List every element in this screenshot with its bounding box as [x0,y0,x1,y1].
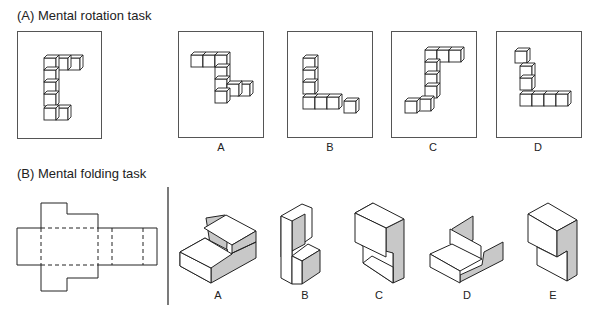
folding-option-d-figure [430,216,503,283]
rotation-option-d-figure [515,48,571,106]
folding-net [17,203,157,291]
rotation-option-a-figure [191,52,253,103]
folding-option-b-figure [281,204,320,284]
diagram-drawings [0,0,589,318]
folding-option-c-figure [355,203,404,283]
rotation-option-c-figure [405,47,464,113]
rotation-target-figure [44,55,83,120]
folding-option-a-figure [180,215,256,283]
folding-option-e-figure [528,203,577,281]
rotation-option-b-figure [303,55,359,113]
